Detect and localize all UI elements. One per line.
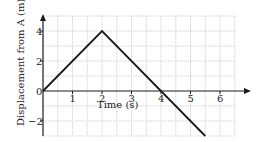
y-tick-label: −2 <box>28 116 43 127</box>
y-tick-label: 4 <box>36 26 42 37</box>
y-axis-label: Displacement from A (m) <box>15 0 26 126</box>
x-tick-label: 6 <box>217 93 223 104</box>
x-tick-label: 1 <box>70 93 76 104</box>
x-axis-label: Time (s) <box>97 99 138 110</box>
displacement-time-chart: 123456420−2 Time (s) Displacement from A… <box>0 0 260 142</box>
x-axis-arrow-icon <box>244 88 251 94</box>
displacement-line <box>43 31 205 136</box>
y-tick-label: 2 <box>36 56 42 67</box>
y-tick-label: 0 <box>36 86 42 97</box>
grid <box>43 16 235 136</box>
y-axis-arrow-icon <box>40 14 46 21</box>
x-tick-label: 5 <box>188 93 194 104</box>
